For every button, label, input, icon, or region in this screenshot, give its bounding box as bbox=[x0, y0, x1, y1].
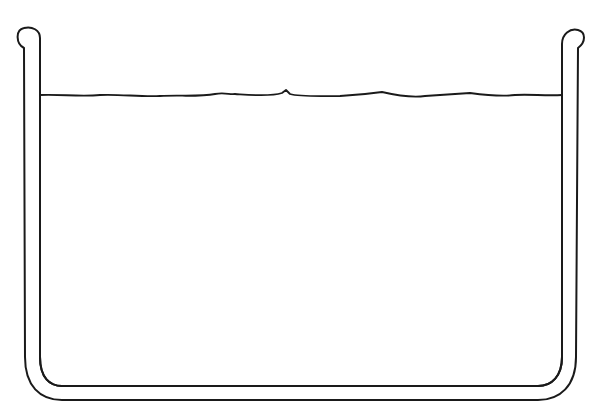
beaker-inner-wall bbox=[40, 95, 562, 386]
beaker-diagram bbox=[0, 0, 598, 407]
beaker-outer-wall bbox=[18, 27, 584, 400]
cropped-label: ... bbox=[560, 398, 590, 407]
water-surface bbox=[40, 90, 562, 97]
